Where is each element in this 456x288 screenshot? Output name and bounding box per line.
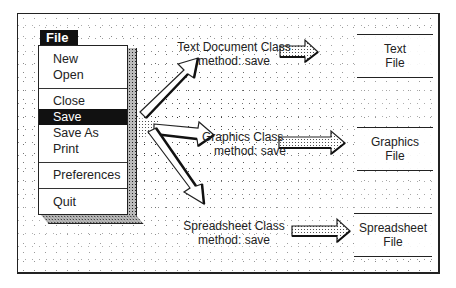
menu-item-save-as[interactable]: Save As — [39, 125, 127, 141]
arrow-to-spreadsheet-file-icon — [292, 219, 350, 242]
class-method: method: save — [182, 233, 286, 247]
file-menu-title[interactable]: File — [40, 30, 78, 46]
class-method: method: save — [174, 54, 294, 68]
menu-separator — [39, 188, 127, 189]
graphics-class-label: Graphics Class method: save — [218, 130, 282, 158]
class-name: Text Document Class — [174, 40, 294, 54]
class-name: Spreadsheet Class — [182, 219, 286, 233]
menu-item-save[interactable]: Save — [39, 109, 127, 125]
text-document-class-label: Text Document Class method: save — [174, 40, 294, 68]
spreadsheet-class-label: Spreadsheet Class method: save — [182, 219, 286, 247]
arrow-to-graphics-file-icon — [279, 131, 345, 154]
class-name: Graphics Class — [202, 130, 282, 144]
store-label: Spreadsheet — [359, 221, 427, 235]
menu-shadow — [128, 48, 137, 218]
menu-shadow-bottom — [41, 215, 144, 224]
menu-separator — [39, 162, 127, 163]
menu-item-preferences[interactable]: Preferences — [39, 167, 127, 183]
store-label: File — [385, 149, 404, 163]
store-label: File — [383, 235, 402, 249]
store-label: File — [385, 56, 404, 70]
menu-item-open[interactable]: Open — [39, 67, 127, 83]
store-label: Graphics — [371, 135, 419, 149]
store-label: Text — [384, 42, 406, 56]
graphics-file-store: Graphics File — [357, 127, 433, 171]
menu-item-new[interactable]: New — [39, 51, 127, 67]
file-menu-dropdown: New Open Close Save Save As Print Prefer… — [38, 45, 128, 215]
menu-item-print[interactable]: Print — [39, 141, 127, 157]
menu-separator — [39, 88, 127, 89]
spreadsheet-file-store: Spreadsheet File — [354, 213, 432, 257]
menu-item-quit[interactable]: Quit — [39, 194, 127, 210]
menu-item-close[interactable]: Close — [39, 93, 127, 109]
text-file-store: Text File — [357, 34, 433, 78]
class-method: method: save — [214, 144, 282, 158]
